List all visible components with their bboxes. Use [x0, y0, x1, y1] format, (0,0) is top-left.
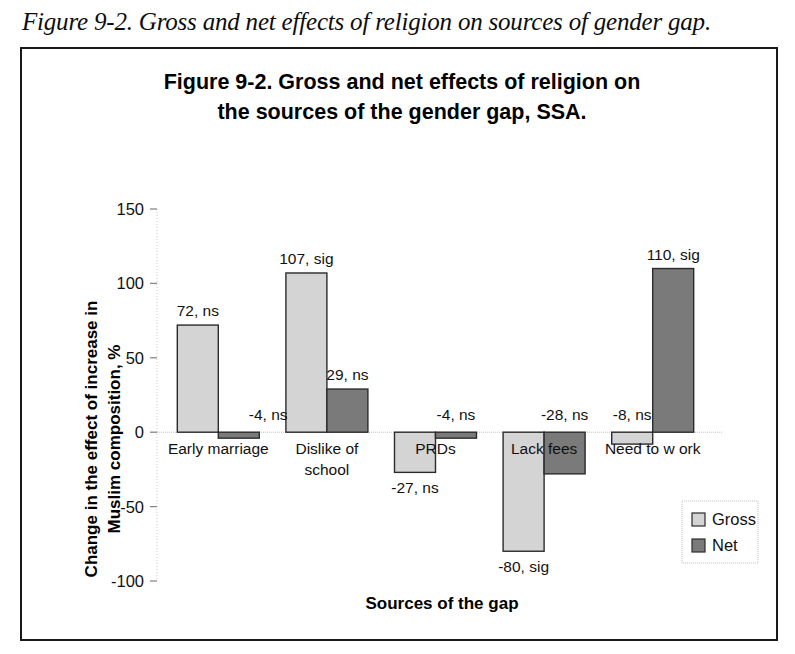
y-axis-tick-label: -50	[120, 498, 144, 516]
value-label-net-3: -28, ns	[541, 406, 589, 423]
category-label-1: Dislike of	[295, 440, 359, 457]
category-label-0: Early marriage	[168, 440, 269, 457]
figure-caption: Figure 9-2. Gross and net effects of rel…	[22, 2, 772, 42]
figure-page: Figure 9-2. Gross and net effects of rel…	[0, 0, 795, 654]
category-label-1: school	[304, 461, 349, 478]
value-label-gross-0: 72, ns	[177, 302, 219, 319]
bar-net-1[interactable]	[327, 389, 368, 432]
y-axis-tick-label: -100	[111, 572, 144, 590]
chart-plot-area: Change in the effect of increase in Musl…	[22, 49, 776, 639]
value-label-gross-4: -8, ns	[613, 406, 652, 423]
value-label-net-4: 110, sig	[647, 246, 700, 263]
value-label-net-1: 29, ns	[326, 366, 368, 383]
bar-net-2[interactable]	[436, 432, 477, 438]
value-label-gross-1: 107, sig	[279, 250, 333, 267]
value-label-net-2: -4, ns	[437, 406, 476, 423]
value-label-net-0: -4, ns	[249, 406, 288, 423]
category-label-4: Need to w ork	[605, 440, 701, 457]
value-labels-layer: 72, ns-4, ns107, sig29, ns-27, ns-4, ns-…	[177, 246, 700, 576]
legend-label-net[interactable]: Net	[712, 536, 738, 554]
y-axis-title-line-1: Change in the effect of increase in	[82, 301, 101, 578]
bar-chart-svg: Change in the effect of increase in Musl…	[22, 49, 776, 639]
legend-label-gross[interactable]: Gross	[712, 510, 756, 528]
y-axis-tick-label: 150	[116, 200, 144, 218]
y-axis-tick-label: 100	[116, 274, 144, 292]
bar-net-0[interactable]	[218, 432, 259, 438]
bar-gross-1[interactable]	[286, 273, 327, 432]
y-axis-title: Change in the effect of increase in Musl…	[82, 301, 124, 578]
bar-net-4[interactable]	[653, 269, 694, 433]
category-label-2: PRDs	[415, 440, 456, 457]
y-axis-tick-label: 50	[126, 349, 144, 367]
figure-frame: Figure 9-2. Gross and net effects of rel…	[20, 47, 778, 641]
legend-swatch-gross	[692, 513, 705, 526]
category-label-3: Lack fees	[511, 440, 578, 457]
y-axis-tick-label: 0	[135, 423, 144, 441]
legend-swatch-net	[692, 539, 705, 552]
value-label-gross-3: -80, sig	[498, 558, 549, 575]
x-axis-title: Sources of the gap	[365, 594, 518, 613]
value-label-gross-2: -27, ns	[391, 479, 439, 496]
bar-gross-0[interactable]	[177, 325, 218, 432]
chart-legend[interactable]: GrossNet	[682, 501, 758, 563]
